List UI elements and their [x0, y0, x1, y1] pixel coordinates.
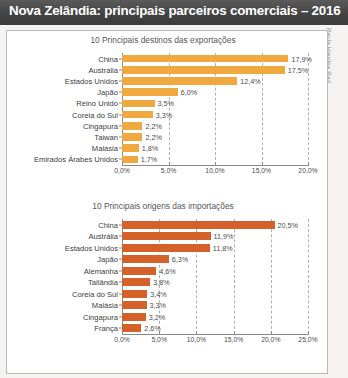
x-axis-line: [122, 334, 308, 335]
bar-value-label: 3,5%: [158, 99, 174, 108]
chart-row: 2,2%Taiwan: [122, 131, 308, 142]
bar: [122, 156, 138, 164]
x-tick-label: 10,0%: [205, 167, 224, 174]
category-label: Alemanha: [84, 266, 118, 275]
category-tick: [119, 270, 122, 271]
bar: [122, 111, 153, 119]
x-tick-label: 5,0%: [151, 336, 167, 343]
bar-value-label: 2,2%: [145, 121, 161, 130]
category-tick: [119, 114, 122, 115]
category-label: China: [98, 54, 118, 63]
x-tick-label: 20,0%: [298, 167, 317, 174]
bar-value-label: 11,8%: [213, 243, 233, 252]
category-label: Estados Unidos: [65, 76, 118, 85]
chart-row: 3,4%Coreia do Sul: [122, 288, 308, 300]
bar-value-label: 1,8%: [142, 144, 158, 153]
category-tick: [119, 125, 122, 126]
category-label: Austrália: [88, 232, 118, 241]
chart-row: 17,5%Austrália: [122, 64, 308, 75]
bar-value-label: 17,5%: [288, 65, 308, 74]
x-tick-mark: [122, 162, 123, 166]
bar-value-label: 6,0%: [181, 88, 197, 97]
bar: [122, 232, 211, 240]
category-label: Cingapura: [83, 312, 118, 321]
bar-value-label: 3,8%: [153, 278, 169, 287]
page-title: Nova Zelândia: principais parceiros come…: [9, 3, 340, 18]
bar-value-label: 20,5%: [278, 220, 298, 229]
chart-row: 3,5%Reino Unido: [122, 98, 308, 109]
category-label: Austrália: [88, 65, 118, 74]
category-tick: [119, 136, 122, 137]
bar: [122, 290, 147, 298]
bar-value-label: 3,3%: [150, 301, 166, 310]
bar: [122, 77, 237, 85]
bar: [122, 66, 285, 74]
chart-row: 1,8%Malásia: [122, 143, 308, 154]
category-label: China: [98, 220, 118, 229]
chart-row: 4,6%Alemanha: [122, 265, 308, 277]
chart-exports: 10 Principais destinos das exportações 1…: [7, 31, 327, 201]
x-tick-label: 10,0%: [187, 336, 206, 343]
x-tick-label: 25,0%: [298, 336, 317, 343]
chart-imports-plot: 20,5%China11,9%Austrália11,8%Estados Uni…: [122, 219, 308, 334]
x-tick-mark: [159, 331, 160, 335]
chart-row: 3,3%Malásia: [122, 300, 308, 312]
category-tick: [119, 247, 122, 248]
x-tick-mark: [308, 331, 309, 335]
x-tick-label: 0,0%: [114, 167, 130, 174]
category-tick: [119, 316, 122, 317]
bar-value-label: 2,2%: [145, 132, 161, 141]
bar: [122, 313, 146, 321]
category-tick: [119, 328, 122, 329]
chart-row: 6,3%Japão: [122, 254, 308, 266]
figure-frame: 10 Principais destinos das exportações 1…: [6, 30, 328, 374]
category-label: Cingapura: [83, 121, 118, 130]
bar-value-label: 3,4%: [150, 289, 166, 298]
category-tick: [119, 305, 122, 306]
bar: [122, 100, 155, 108]
chart-exports-plot: 17,9%China17,5%Austrália12,4%Estados Uni…: [122, 53, 308, 165]
category-label: Estados Unidos: [65, 243, 118, 252]
figure-title-bar: Nova Zelândia: principais parceiros come…: [0, 0, 348, 25]
chart-imports-bars: 20,5%China11,9%Austrália11,8%Estados Uni…: [122, 219, 308, 334]
bar: [122, 267, 156, 275]
bar: [122, 301, 147, 309]
category-tick: [119, 92, 122, 93]
category-tick: [119, 282, 122, 283]
category-tick: [119, 293, 122, 294]
chart-imports-title: 10 Principais origens das importações: [7, 201, 319, 211]
x-tick-mark: [196, 331, 197, 335]
category-tick: [119, 236, 122, 237]
chart-row: 3,2%Cingapura: [122, 311, 308, 323]
x-tick-mark: [234, 331, 235, 335]
bar: [122, 255, 169, 263]
category-label: Japão: [97, 255, 118, 264]
category-tick: [119, 58, 122, 59]
bar-value-label: 3,2%: [149, 312, 165, 321]
x-tick-label: 15,0%: [224, 336, 243, 343]
bar-value-label: 3,3%: [156, 110, 172, 119]
x-tick-mark: [122, 331, 123, 335]
category-tick: [119, 69, 122, 70]
chart-row: 2,2%Cingapura: [122, 120, 308, 131]
category-label: Reino Unido: [76, 99, 118, 108]
bar: [122, 221, 275, 229]
chart-row: 12,4%Estados Unidos: [122, 75, 308, 86]
bar: [122, 133, 142, 141]
x-tick-mark: [169, 162, 170, 166]
chart-row: 3,3%Coreia do Sul: [122, 109, 308, 120]
category-label: Malásia: [92, 144, 118, 153]
gridline: [308, 53, 309, 165]
gridline: [308, 219, 309, 334]
bar-value-label: 4,6%: [159, 266, 175, 275]
chart-exports-title: 10 Principais destinos das exportações: [7, 35, 319, 45]
bar: [122, 278, 150, 286]
x-tick-mark: [215, 162, 216, 166]
category-tick: [119, 159, 122, 160]
chart-row: 3,8%Tailândia: [122, 277, 308, 289]
bar: [122, 324, 141, 332]
chart-row: 11,9%Austrália: [122, 231, 308, 243]
category-tick: [119, 103, 122, 104]
bar: [122, 55, 288, 63]
category-tick: [119, 259, 122, 260]
